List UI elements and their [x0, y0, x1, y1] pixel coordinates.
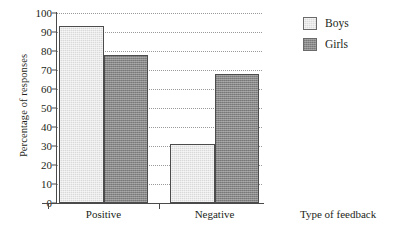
bar-boys-negative: [170, 144, 215, 203]
bar-girls-positive: [104, 55, 149, 203]
y-tick-label: 10: [12, 178, 52, 190]
bar-girls-negative: [215, 74, 260, 203]
legend-swatch-girls-icon: [303, 38, 317, 51]
legend-label-girls: Girls: [325, 39, 348, 51]
bar-boys-positive: [59, 26, 104, 203]
x-tick-mark: [48, 203, 49, 209]
y-tick-label: 70: [12, 64, 52, 76]
x-category-label: Positive: [59, 208, 148, 220]
y-tick-label: 80: [12, 45, 52, 57]
legend: Boys Girls: [303, 16, 349, 58]
y-tick-label: 20: [12, 159, 52, 171]
bar-chart: Percentage of responses 0102030405060708…: [0, 0, 410, 234]
y-tick-label: 100: [12, 7, 52, 19]
x-tick-mark: [159, 203, 160, 209]
y-tick-label: 50: [12, 102, 52, 114]
gridline: [57, 13, 262, 14]
y-axis-ticks: 0102030405060708090100: [0, 0, 52, 234]
legend-swatch-boys-icon: [303, 17, 317, 30]
y-tick-label: 30: [12, 140, 52, 152]
x-axis-title: Type of feedback: [300, 208, 376, 220]
y-tick-label: 40: [12, 121, 52, 133]
x-axis-line: [42, 203, 264, 204]
legend-label-boys: Boys: [325, 18, 349, 30]
plot-area: [57, 13, 262, 203]
y-tick-label: 90: [12, 26, 52, 38]
legend-item-girls: Girls: [303, 37, 349, 52]
x-category-label: Negative: [170, 208, 259, 220]
legend-item-boys: Boys: [303, 16, 349, 31]
y-tick-label: 60: [12, 83, 52, 95]
